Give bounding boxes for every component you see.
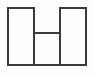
- h-shape-figure: [0, 0, 94, 76]
- drawing-canvas: [0, 0, 94, 76]
